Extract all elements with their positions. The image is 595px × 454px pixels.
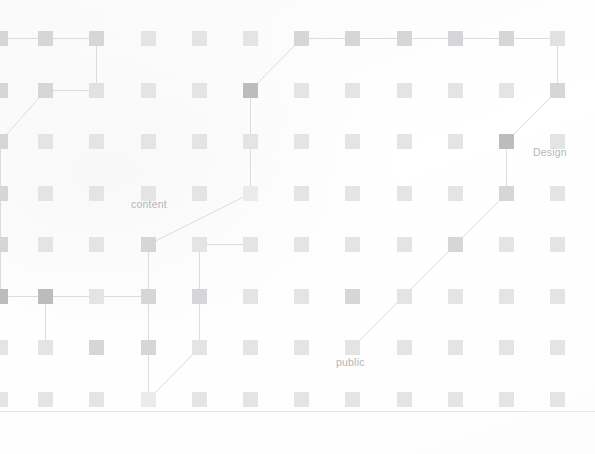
label-design: Design: [533, 146, 567, 158]
label-public: public: [336, 356, 365, 368]
node-graph-canvas: contentDesignpublic: [0, 0, 595, 454]
label-layer: contentDesignpublic: [0, 0, 595, 454]
label-content: content: [131, 198, 167, 210]
